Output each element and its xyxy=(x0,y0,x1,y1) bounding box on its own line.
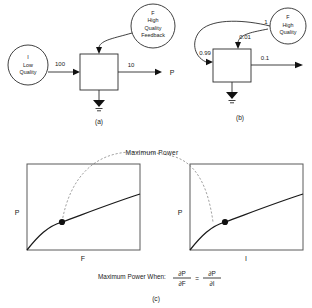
chart-curve-right xyxy=(190,194,303,250)
figure-canvas: I Low Quality 100 F High Quality Feedbac… xyxy=(0,0,312,308)
equation-num-right: ∂P xyxy=(208,270,215,277)
max-power-annotation: Maximum Power xyxy=(126,149,179,156)
equation-den-right: ∂I xyxy=(210,280,215,287)
panel-c-label: (c) xyxy=(152,295,160,303)
panel-c: Maximum Power P F P I Maximum Power When… xyxy=(0,0,312,308)
chart-curve-left xyxy=(27,194,140,250)
equation-equals: = xyxy=(195,275,199,282)
chart-xlabel-left: F xyxy=(81,255,85,262)
chart-ylabel-right: P xyxy=(178,209,183,216)
max-power-marker-left xyxy=(59,219,65,225)
chart-frame-left xyxy=(27,164,140,250)
equation-prefix: Maximum Power When: xyxy=(98,273,166,280)
equation-num-left: ∂P xyxy=(178,270,185,277)
max-power-leader-left xyxy=(62,152,133,222)
chart-ylabel-left: P xyxy=(15,209,20,216)
chart-frame-right xyxy=(190,164,303,250)
max-power-marker-right xyxy=(222,219,228,225)
equation-den-left: ∂F xyxy=(178,280,185,287)
chart-xlabel-right: I xyxy=(245,255,247,262)
